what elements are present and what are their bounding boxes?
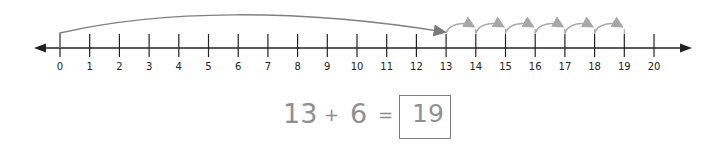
tick-label: 9 — [324, 61, 330, 72]
hop-arc — [446, 24, 473, 33]
hop-arc — [535, 24, 562, 33]
tick-label: 5 — [205, 61, 211, 72]
addend-2: 6 — [350, 98, 367, 129]
tick-label: 16 — [529, 61, 542, 72]
tick-label: 7 — [265, 61, 271, 72]
equals-sign: = — [378, 104, 393, 125]
hop-arc — [476, 24, 503, 33]
tick-label: 10 — [351, 61, 364, 72]
answer: 19 — [412, 99, 444, 128]
tick-label: 3 — [146, 61, 152, 72]
tick-label: 14 — [469, 61, 482, 72]
tick-labels: 01234567891011121314151617181920 — [57, 61, 661, 72]
hop-arc — [565, 24, 592, 33]
left-arrow-icon — [34, 44, 46, 53]
tick-label: 6 — [235, 61, 241, 72]
axis — [34, 44, 692, 53]
tick-label: 8 — [294, 61, 300, 72]
tick-label: 17 — [559, 61, 572, 72]
equation: 13 + 6 = 19 — [0, 92, 711, 142]
tick-label: 2 — [116, 61, 122, 72]
hop-arc — [595, 24, 622, 33]
tick-label: 15 — [499, 61, 512, 72]
tick-label: 1 — [87, 61, 93, 72]
number-line: 01234567891011121314151617181920 — [0, 0, 711, 90]
tick-label: 0 — [57, 61, 63, 72]
tick-label: 13 — [440, 61, 453, 72]
addend-1: 13 — [283, 98, 317, 129]
tick-label: 11 — [380, 61, 393, 72]
tick-label: 12 — [410, 61, 423, 72]
tick-label: 19 — [618, 61, 631, 72]
tick-label: 18 — [588, 61, 601, 72]
tick-label: 4 — [176, 61, 182, 72]
ticks — [60, 34, 654, 57]
right-arrow-icon — [680, 44, 692, 53]
tick-label: 20 — [648, 61, 661, 72]
plus-sign: + — [324, 104, 339, 125]
jumps — [60, 15, 624, 48]
hop-arc — [506, 24, 533, 33]
